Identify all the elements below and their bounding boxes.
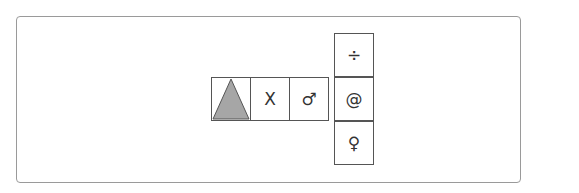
female-symbol-icon: ♀ bbox=[348, 135, 360, 152]
divide-symbol-icon: ÷ bbox=[347, 47, 361, 64]
cell-triangle bbox=[211, 77, 251, 121]
male-symbol-icon: ♂ bbox=[301, 91, 316, 108]
cell-divide: ÷ bbox=[334, 33, 374, 77]
triangle-icon bbox=[212, 78, 250, 120]
cell-x: X bbox=[250, 77, 290, 121]
cell-female: ♀ bbox=[334, 121, 374, 165]
x-symbol: X bbox=[264, 91, 276, 108]
cell-at: @ bbox=[334, 77, 374, 121]
cell-male: ♂ bbox=[289, 77, 329, 121]
at-symbol: @ bbox=[346, 91, 363, 108]
